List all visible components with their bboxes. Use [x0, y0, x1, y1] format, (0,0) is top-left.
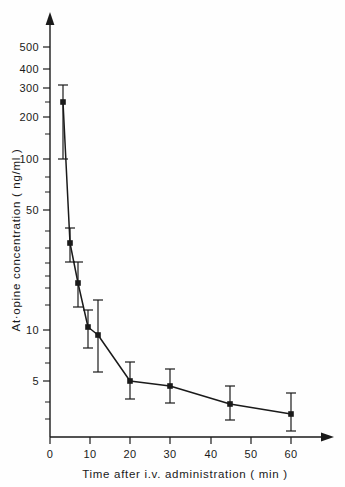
- data-point: [67, 240, 73, 246]
- x-tick-label-10: 10: [83, 448, 96, 460]
- x-tick-label-60: 60: [284, 448, 297, 460]
- data-point: [95, 332, 101, 338]
- x-tick-label-30: 30: [163, 448, 176, 460]
- atropine-concentration-plot: 500 400 300 200 100 50 10 5: [0, 0, 345, 487]
- y-axis: [46, 12, 55, 437]
- y-tick-label-50: 50: [26, 204, 39, 216]
- error-bar-group: [58, 85, 296, 431]
- y-tick-label-300: 300: [19, 82, 39, 94]
- data-point: [167, 383, 173, 389]
- x-tick-label-50: 50: [244, 448, 257, 460]
- data-point: [75, 280, 81, 286]
- x-axis-title: Time after i.v. administration ( min ): [82, 468, 288, 480]
- data-point-group: [60, 99, 294, 417]
- data-series-line: [63, 102, 291, 414]
- x-tick-label-0: 0: [47, 448, 54, 460]
- data-point: [85, 324, 91, 330]
- data-point: [288, 411, 294, 417]
- y-tick-label-400: 400: [19, 63, 39, 75]
- y-tick-label-10: 10: [26, 324, 39, 336]
- data-point: [127, 378, 133, 384]
- y-minor-tick-group: [45, 102, 50, 419]
- y-tick-label-500: 500: [19, 41, 39, 53]
- chart-figure: 500 400 300 200 100 50 10 5: [0, 0, 345, 487]
- data-point: [60, 99, 66, 105]
- y-axis-title: At·opine concentration ( ng/ml ): [10, 149, 22, 332]
- x-tick-label-40: 40: [204, 448, 217, 460]
- x-tick-group: 0 10 20 30 40 50 60: [47, 437, 298, 460]
- y-tick-label-100: 100: [19, 153, 39, 165]
- error-bar: [58, 85, 68, 159]
- x-tick-label-20: 20: [123, 448, 136, 460]
- data-point: [227, 401, 233, 407]
- y-tick-label-200: 200: [19, 111, 39, 123]
- y-tick-group: 500 400 300 200 100 50 10 5: [19, 41, 50, 387]
- y-tick-label-5: 5: [32, 375, 39, 387]
